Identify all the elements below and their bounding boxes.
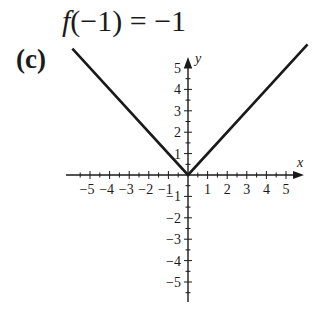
x-tick-label: 1 — [204, 182, 211, 197]
x-axis-arrow-icon — [293, 171, 304, 179]
y-tick-label: 4 — [174, 82, 181, 97]
x-tick-label: −5 — [80, 182, 95, 197]
y-tick-label: 2 — [174, 125, 181, 140]
x-tick-label: −2 — [138, 182, 153, 197]
graph-plot: −5−4−3−2−11234554321−1−2−3−4−5xy — [0, 0, 328, 315]
y-tick-label: −1 — [166, 189, 181, 204]
x-tick-label: 5 — [283, 182, 290, 197]
y-tick-label: −5 — [166, 275, 181, 290]
x-tick-label: −3 — [119, 182, 134, 197]
y-tick-label: 3 — [174, 104, 181, 119]
y-tick-label: −2 — [166, 211, 181, 226]
x-tick-label: 3 — [243, 182, 250, 197]
y-tick-label: 5 — [174, 61, 181, 76]
y-tick-label: −3 — [166, 232, 181, 247]
y-axis-label: y — [193, 51, 202, 66]
x-tick-label: −4 — [99, 182, 114, 197]
x-tick-label: 4 — [263, 182, 270, 197]
x-axis-label: x — [296, 155, 304, 170]
x-tick-label: 2 — [224, 182, 231, 197]
y-axis-arrow-icon — [184, 57, 192, 68]
y-tick-label: −4 — [166, 254, 181, 269]
